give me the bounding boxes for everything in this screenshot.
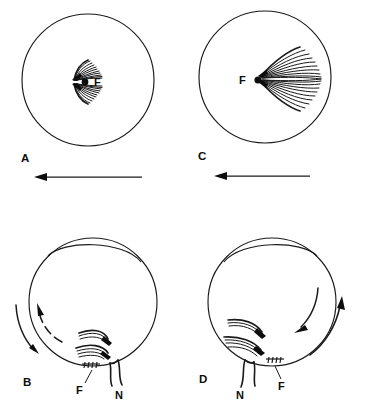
panel-c-fovea-label: F: [239, 74, 246, 86]
panel-c-direction-arrow: [214, 172, 310, 180]
panel-c-fiber-fan-upper: [261, 47, 321, 79]
ophthalmology-figure: F A: [0, 0, 367, 403]
panel-b-globe-outline: [29, 238, 157, 366]
panel-a-direction-arrow: [34, 173, 142, 181]
panel-c: F C: [198, 11, 331, 180]
panel-d-label: D: [199, 373, 207, 385]
panel-d: F N D: [199, 238, 345, 401]
figure-container: F A: [0, 0, 367, 403]
panel-d-nerve-label: N: [236, 389, 244, 401]
panel-d-globe-outline: [208, 238, 336, 366]
panel-b-fovea-leader: [85, 370, 92, 383]
panel-b-fovea-label: F: [76, 384, 83, 396]
panel-a-fovea-label: F: [94, 76, 101, 88]
panel-b-fiber-tip-lower: [100, 351, 111, 360]
panel-d-inner-rotation-arrow: [294, 288, 318, 333]
panel-b-nerve-label: N: [115, 389, 123, 401]
panel-c-label: C: [198, 150, 206, 162]
panel-c-fovea-dot: [254, 76, 261, 83]
panel-a-fovea-dot: [82, 79, 89, 86]
panel-d-fovea-marking: [266, 357, 284, 363]
panel-a: F A: [21, 14, 154, 181]
panel-c-fiber-fan-lower: [261, 79, 321, 111]
panel-d-fovea-label: F: [278, 380, 285, 392]
panel-d-optic-nerve: [241, 360, 255, 387]
panel-b: F N B: [16, 238, 157, 401]
panel-b-optic-nerve: [110, 360, 122, 386]
panel-d-fovea-leader: [275, 366, 281, 379]
panel-a-label: A: [21, 152, 29, 164]
panel-b-inner-rotation-arrow: [37, 303, 62, 342]
panel-b-label: B: [23, 376, 31, 388]
panel-a-globe-outline: [22, 14, 154, 146]
panel-b-fovea-marking: [82, 362, 100, 368]
